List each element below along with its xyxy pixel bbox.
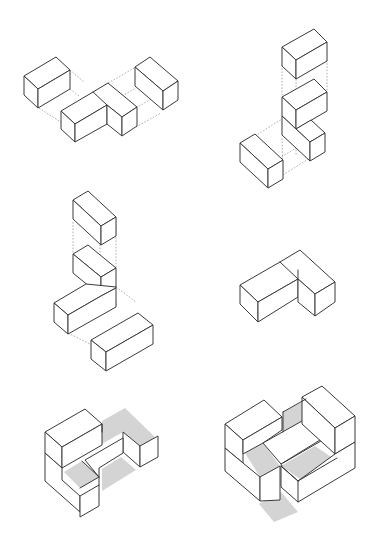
isometric-blocks-diagram xyxy=(0,0,377,539)
block-top xyxy=(282,29,327,79)
figure-3-exploded-stack xyxy=(54,191,153,371)
block-c xyxy=(135,57,178,110)
block-bottom-left xyxy=(240,134,283,188)
block-b-t-shape xyxy=(61,83,137,142)
figure-4-l-shape xyxy=(240,250,335,322)
figure-1-exploded-horizontal xyxy=(24,57,178,142)
block-middle xyxy=(282,79,327,129)
figure-2-exploded-stack xyxy=(240,29,327,188)
block-long-left xyxy=(54,284,116,334)
block-a xyxy=(24,57,70,108)
figure-6-courtyard-shadow xyxy=(225,386,355,522)
figure-5-assembled-shadow xyxy=(45,408,158,517)
block-long-right xyxy=(91,313,153,371)
block-top xyxy=(73,191,116,245)
